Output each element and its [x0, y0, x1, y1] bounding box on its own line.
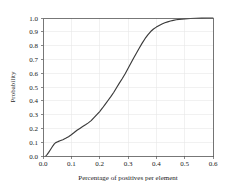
y-tick-label: 0.4 [29, 97, 38, 105]
chart-figure: 0.00.10.20.30.40.50.6 0.00.10.20.30.40.5… [0, 0, 233, 191]
x-tick-label: 0.6 [209, 160, 218, 168]
x-tick-label: 0.1 [67, 160, 76, 168]
y-tick-label: 1.0 [29, 15, 38, 23]
y-tick-label: 0.2 [29, 125, 38, 133]
y-tick-label: 0.1 [29, 139, 38, 147]
x-tick-label: 0.3 [124, 160, 133, 168]
y-tick-label: 0.6 [29, 70, 38, 78]
x-tick-label: 0.5 [180, 160, 189, 168]
y-tick-label: 0.8 [29, 42, 38, 50]
x-axis-title: Percentage of positives per element [78, 174, 178, 182]
cdf-line-chart: 0.00.10.20.30.40.50.6 0.00.10.20.30.40.5… [0, 0, 233, 191]
y-tick-label: 0.0 [29, 153, 38, 161]
y-axis-title: Probability [9, 71, 17, 103]
y-tick-label: 0.5 [29, 84, 38, 92]
x-tick-label: 0.2 [95, 160, 104, 168]
y-tick-label: 0.9 [29, 28, 38, 36]
x-tick-label: 0.0 [39, 160, 48, 168]
x-tick-label: 0.4 [152, 160, 161, 168]
y-tick-label: 0.3 [29, 111, 38, 119]
y-tick-label: 0.7 [29, 56, 38, 64]
